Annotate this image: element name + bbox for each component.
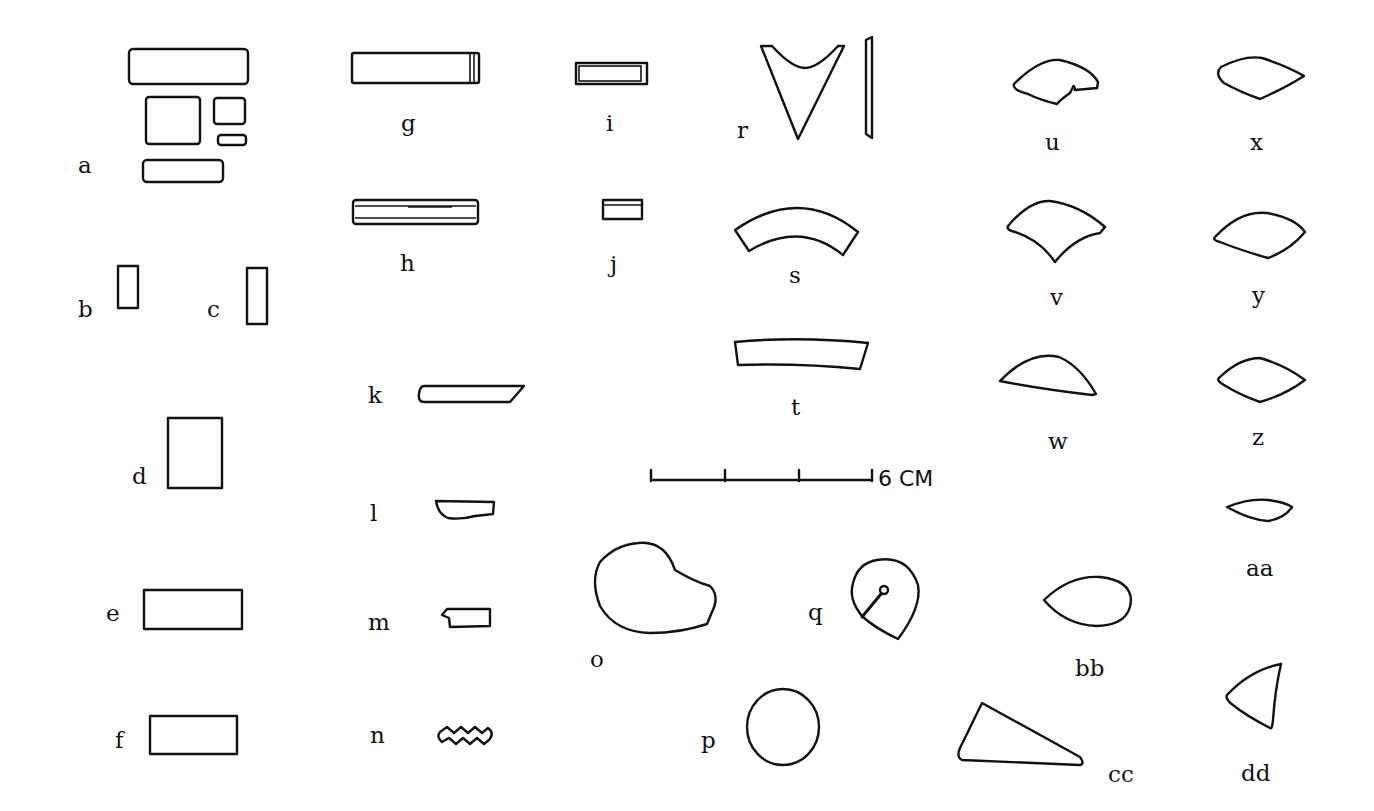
artifact-bb — [1044, 577, 1131, 626]
artifact-n — [438, 727, 491, 744]
artifact-m — [442, 609, 490, 627]
artifact-j — [603, 200, 642, 219]
label-f: f — [115, 727, 125, 753]
artifact-o — [595, 543, 716, 633]
label-b: b — [78, 296, 93, 322]
artifact-e — [144, 590, 242, 629]
artifact-x — [1218, 57, 1304, 99]
artifact-v — [1008, 201, 1105, 262]
label-l: l — [370, 500, 377, 526]
artifact-a — [129, 49, 248, 182]
label-cc: cc — [1108, 761, 1134, 787]
artifact-u — [1014, 60, 1098, 104]
artifact-f — [150, 716, 237, 754]
label-m: m — [368, 609, 390, 635]
label-s: s — [789, 262, 801, 288]
artifact-y — [1214, 213, 1305, 258]
label-j: j — [607, 251, 617, 277]
artifact-t — [735, 339, 868, 369]
label-i: i — [606, 110, 613, 136]
label-aa: aa — [1246, 555, 1274, 581]
label-dd: dd — [1241, 760, 1271, 786]
label-a: a — [78, 152, 92, 178]
label-x: x — [1250, 129, 1263, 155]
artifact-p — [747, 689, 819, 765]
label-bb: bb — [1075, 655, 1104, 681]
artifact-z — [1218, 358, 1305, 402]
label-h: h — [400, 250, 415, 276]
artifact-i — [576, 63, 647, 84]
artifact-d — [168, 418, 222, 488]
artifact-k — [419, 386, 524, 402]
label-k: k — [368, 382, 383, 408]
label-d: d — [132, 463, 147, 489]
artifact-l — [436, 501, 494, 519]
label-c: c — [207, 296, 220, 322]
artifact-h — [353, 200, 478, 224]
artifact-cc — [958, 703, 1082, 765]
artifact-w — [1000, 356, 1096, 395]
artifact-r — [761, 37, 872, 139]
label-e: e — [106, 600, 120, 626]
label-w: w — [1048, 428, 1068, 454]
label-o: o — [590, 646, 604, 672]
label-p: p — [701, 727, 716, 753]
label-t: t — [791, 394, 801, 420]
scale-bar-label: 6 CM — [878, 466, 933, 491]
artifact-q — [852, 559, 919, 639]
label-v: v — [1049, 284, 1063, 310]
artifact-g — [352, 53, 479, 83]
label-n: n — [370, 722, 385, 748]
artifact-c — [247, 268, 267, 324]
label-g: g — [401, 110, 416, 136]
artifact-b — [118, 266, 138, 308]
label-z: z — [1252, 424, 1264, 450]
label-q: q — [808, 599, 823, 625]
label-r: r — [737, 117, 748, 143]
artifact-aa — [1227, 500, 1292, 521]
artifact-plate: a b c d e f g h k l m n i — [0, 0, 1374, 811]
label-u: u — [1045, 129, 1060, 155]
scale-bar — [651, 470, 872, 481]
artifact-s — [735, 208, 858, 255]
artifact-dd — [1227, 664, 1281, 728]
label-y: y — [1251, 282, 1265, 308]
